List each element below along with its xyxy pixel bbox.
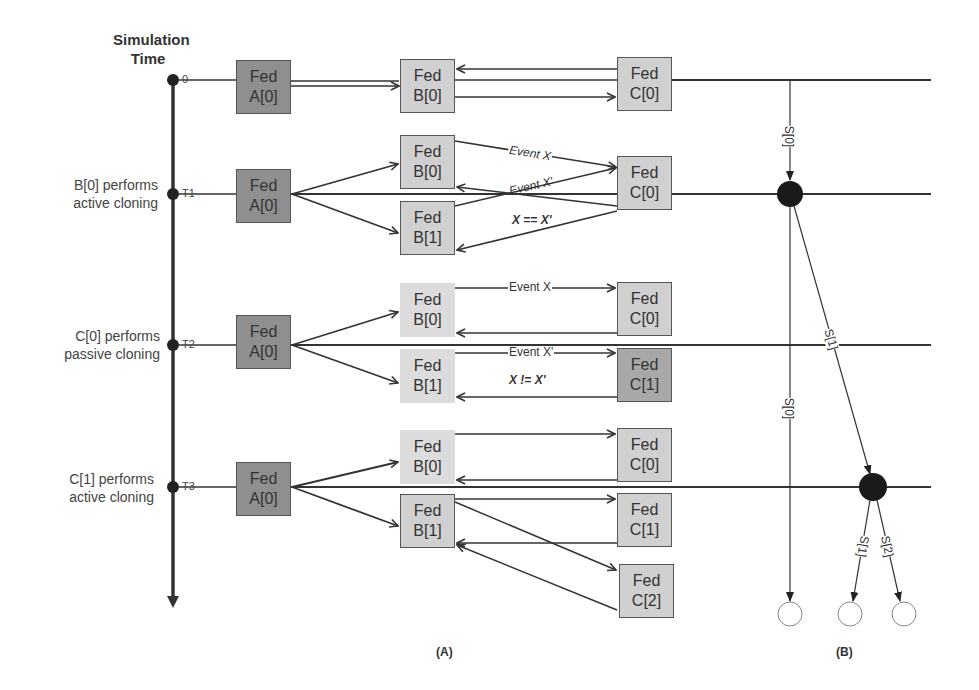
axis-title-line2: Time [113,49,183,68]
row-label-t1-line2: active cloning [20,194,158,212]
fed-label: Fed [414,356,442,376]
fed-label: Fed [631,355,659,375]
fed-a0-row2: Fed A[0] [236,315,291,369]
fed-label: Fed [414,290,442,310]
fed-label: Fed [250,176,278,196]
fed-id: B[0] [413,162,441,182]
edge-label-s0-top: S[0] [782,126,795,147]
fed-c0-row0: Fed C[0] [617,57,672,111]
fed-b1-row2: Fed B[1] [400,349,455,403]
caption-a: (A) [436,645,453,659]
fed-c0-row1: Fed C[0] [617,156,672,210]
fed-b1-row1: Fed B[1] [400,201,455,255]
fed-c1-row2: Fed C[1] [617,348,672,402]
fed-c2-row3: Fed C[2] [619,564,674,618]
axis-title-line1: Simulation [113,30,183,49]
row-label-t2: C[0] performs passive cloning [20,327,160,363]
tick-t3: T3 [182,480,195,492]
fed-label: Fed [250,322,278,342]
fed-label: Fed [250,67,278,87]
fed-b0-row0: Fed B[0] [400,59,455,113]
fed-label: Fed [631,435,659,455]
fed-a0-row1: Fed A[0] [236,169,291,223]
tick-0: 0 [182,73,188,85]
fed-b0-row1: Fed B[0] [400,135,455,189]
inequality-label-row2: X != X' [508,374,547,387]
fed-id: A[0] [249,489,277,509]
row-label-t3: C[1] performs active cloning [20,470,154,506]
fed-c0-row3: Fed C[0] [617,428,672,482]
fed-label: Fed [631,500,659,520]
fed-b0-row3: Fed B[0] [400,430,455,484]
fed-label: Fed [631,289,659,309]
fed-b1-row3: Fed B[1] [400,494,455,548]
row-label-t2-line2: passive cloning [20,345,160,363]
caption-b: (B) [836,645,853,659]
fed-id: A[0] [249,87,277,107]
tick-t1: T1 [182,187,195,199]
row-label-t1: B[0] performs active cloning [20,176,158,212]
fed-id: C[0] [630,84,659,104]
row-label-t3-line2: active cloning [20,488,154,506]
fed-c0-row2: Fed C[0] [617,282,672,336]
fed-id: A[0] [249,196,277,216]
fed-id: B[0] [413,457,441,477]
fed-id: B[1] [413,521,441,541]
fed-id: A[0] [249,342,277,362]
fed-id: B[1] [413,228,441,248]
fed-label: Fed [633,571,661,591]
clone-node-2 [859,473,887,501]
event-x-label-row2: Event X [508,281,552,294]
fed-a0-row0: Fed A[0] [236,60,291,114]
fed-id: C[0] [630,309,659,329]
fed-label: Fed [414,66,442,86]
fed-id: C[1] [630,375,659,395]
edge-label-s0-bottom: S[0] [782,398,795,419]
fed-id: B[1] [413,376,441,396]
axis-title: Simulation Time [113,30,183,68]
fed-c1-row3: Fed C[1] [617,493,672,547]
fed-id: C[2] [632,591,661,611]
equality-label-row1: X == X' [511,214,553,227]
event-xprime-label-row2: Event X' [508,346,554,359]
fed-label: Fed [631,163,659,183]
fed-label: Fed [414,437,442,457]
fed-id: C[0] [630,455,659,475]
fed-label: Fed [414,501,442,521]
fed-a0-row3: Fed A[0] [236,462,291,516]
fed-id: C[0] [630,183,659,203]
fed-id: B[0] [413,86,441,106]
fed-label: Fed [414,208,442,228]
tick-t2: T2 [182,338,195,350]
row-label-t3-line1: C[1] performs [20,470,154,488]
edge-label-s1-leaf: S[1] [854,535,871,558]
clone-node-1 [777,181,803,207]
fed-label: Fed [414,142,442,162]
row-label-t2-line1: C[0] performs [20,327,160,345]
fed-label: Fed [250,469,278,489]
fed-id: B[0] [413,310,441,330]
fed-label: Fed [631,64,659,84]
row-label-t1-line1: B[0] performs [20,176,158,194]
fed-id: C[1] [630,520,659,540]
fed-b0-row2: Fed B[0] [400,283,455,337]
